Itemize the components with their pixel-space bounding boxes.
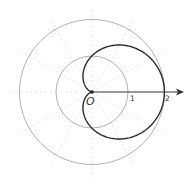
origin-point bbox=[90, 90, 94, 94]
tick-label-2: 2 bbox=[165, 94, 170, 103]
polar-axis bbox=[92, 89, 184, 96]
radial-grid bbox=[10, 8, 165, 178]
origin-label: O bbox=[86, 95, 95, 108]
polar-diagram: O 1 2 bbox=[0, 0, 188, 187]
tick-label-1: 1 bbox=[130, 94, 135, 103]
